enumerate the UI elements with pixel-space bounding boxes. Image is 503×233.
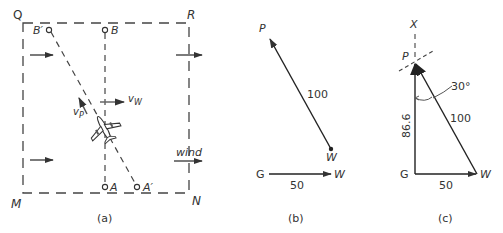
- angle-leader: [433, 86, 452, 98]
- path-bprime-to-aprime: [51, 32, 135, 183]
- label-w-bottom: W: [334, 168, 346, 181]
- label-p: P: [259, 22, 266, 35]
- point-label-b: B: [111, 24, 119, 37]
- label-g: G: [256, 168, 265, 181]
- panel-a: Q R M N B B′ A A′ wind vW vP: [11, 8, 203, 225]
- label-w: W: [480, 168, 492, 181]
- label-x: X: [409, 18, 418, 31]
- panel-c-caption: (c): [438, 212, 453, 225]
- panel-b-caption: (b): [288, 212, 304, 225]
- wind-velocity-label: vW: [128, 93, 143, 107]
- label-p: P: [402, 50, 409, 63]
- magnitude-100: 100: [450, 112, 471, 125]
- airplane-icon: [84, 109, 125, 148]
- magnitude-50: 50: [439, 179, 453, 192]
- point-label-b-prime: B′: [33, 24, 44, 37]
- angle-label: 30°: [451, 80, 471, 93]
- corner-label-q: Q: [13, 8, 22, 22]
- corner-label-r: R: [187, 8, 195, 22]
- wind-label: wind: [176, 146, 203, 159]
- panel-b: P 100 W G W 50 (b): [256, 22, 346, 225]
- magnitude-86-6: 86.6: [400, 114, 413, 139]
- point-a-prime: [134, 184, 139, 189]
- magnitude-100: 100: [307, 88, 328, 101]
- region-box: [23, 23, 189, 193]
- point-a: [102, 184, 107, 189]
- point-b-prime: [46, 27, 51, 32]
- label-g: G: [400, 168, 409, 181]
- corner-label-n: N: [192, 194, 201, 208]
- point-label-a: A: [109, 181, 118, 194]
- panel-c: X P 30° 100 86.6 G W 50 (c): [399, 18, 492, 225]
- point-b: [102, 27, 107, 32]
- point-label-a-prime: A′: [142, 181, 154, 194]
- wind-vector-diagram: Q R M N B B′ A A′ wind vW vP: [0, 0, 503, 233]
- corner-label-m: M: [11, 197, 22, 211]
- plane-velocity-label: vP: [73, 106, 84, 120]
- label-w-top: W: [326, 151, 338, 164]
- panel-a-caption: (a): [97, 212, 112, 225]
- magnitude-50: 50: [290, 179, 304, 192]
